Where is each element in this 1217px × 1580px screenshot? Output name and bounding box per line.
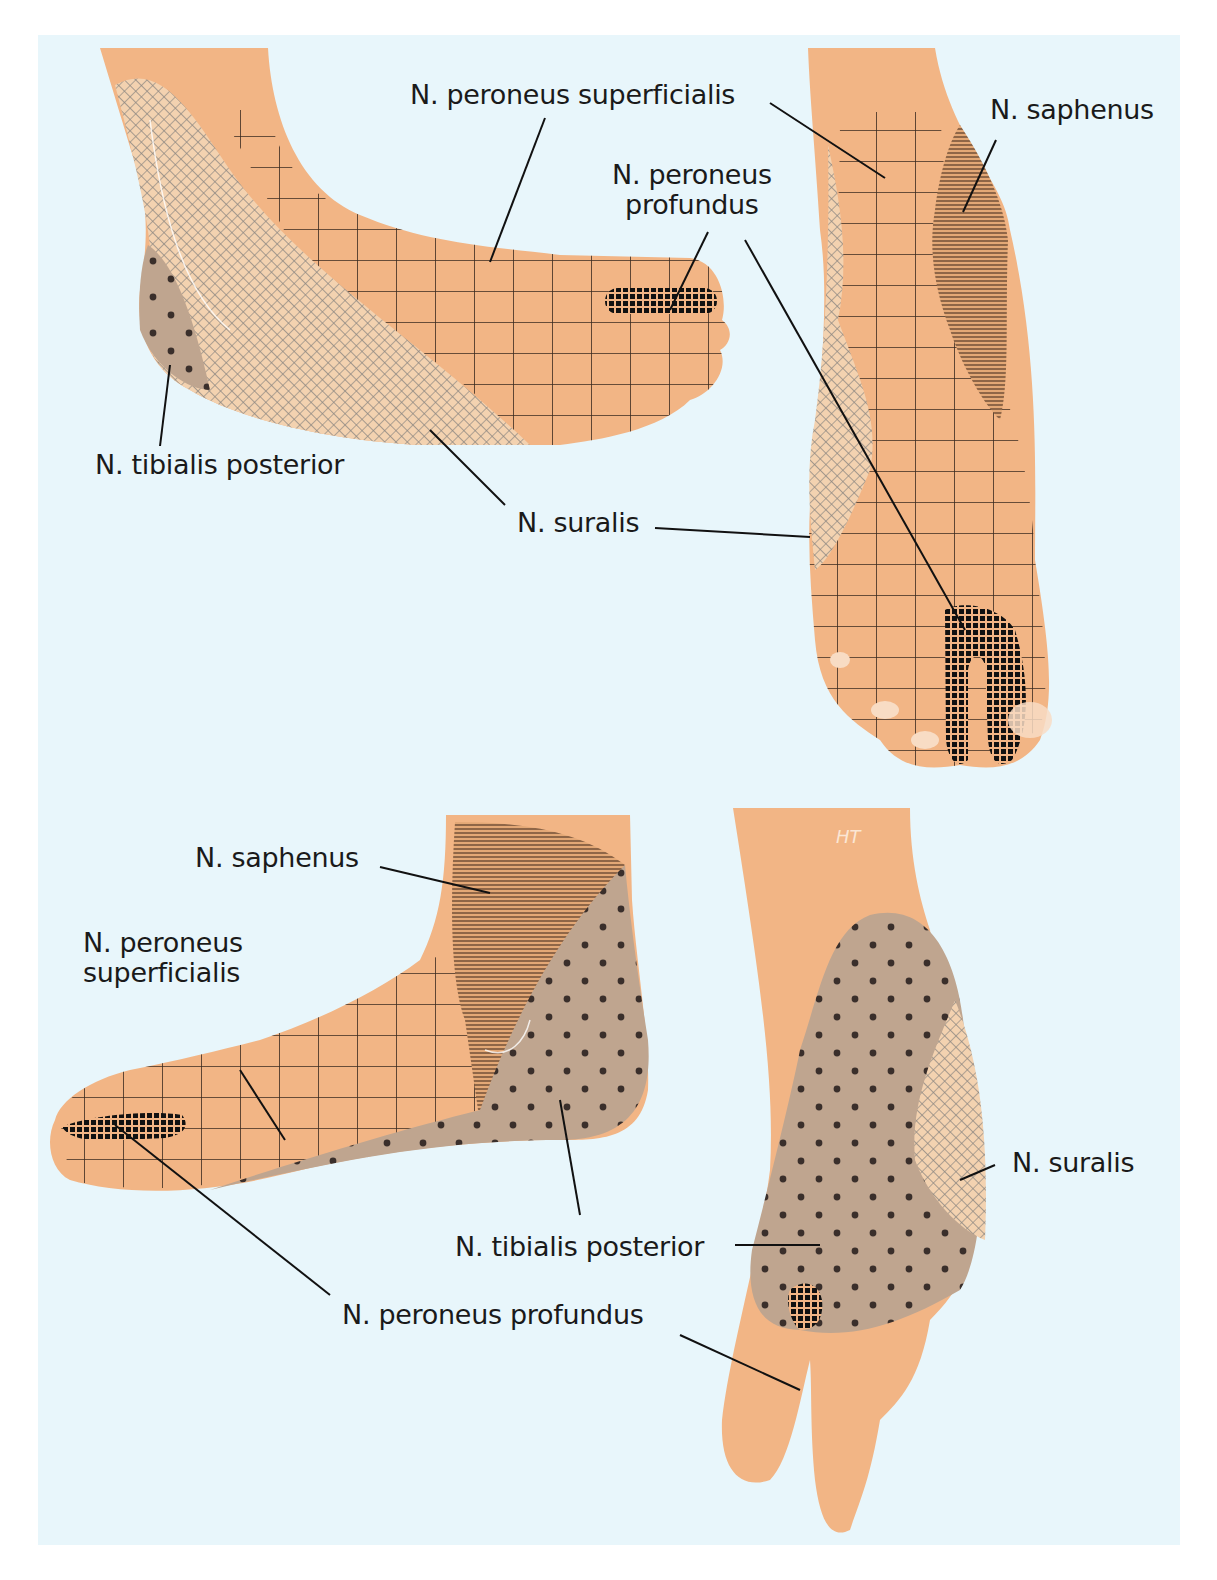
label-tibialis-posterior-medial: N. tibialis posterior xyxy=(455,1232,704,1262)
label-peroneus-superficialis-medial: N. peroneus superficialis xyxy=(83,928,243,988)
dorsal-view xyxy=(808,48,1052,767)
artist-signature: HT xyxy=(836,826,863,847)
plantar-view: HT xyxy=(722,808,986,1533)
foot-innervation-illustration: HT xyxy=(0,0,1217,1580)
profundus-region-lateral xyxy=(605,288,717,314)
label-peroneus-superficialis-lateral: N. peroneus superficialis xyxy=(410,80,735,110)
label-tibialis-posterior-lateral: N. tibialis posterior xyxy=(95,450,344,480)
label-peroneus-profundus-lateral: N. peroneus profundus xyxy=(612,160,772,220)
label-peroneus-profundus-medial: N. peroneus profundus xyxy=(342,1300,644,1330)
label-saphenus-dorsal: N. saphenus xyxy=(990,95,1154,125)
label-suralis-lateral: N. suralis xyxy=(517,508,639,538)
label-saphenus-medial: N. saphenus xyxy=(195,843,359,873)
label-suralis-plantar: N. suralis xyxy=(1012,1148,1134,1178)
